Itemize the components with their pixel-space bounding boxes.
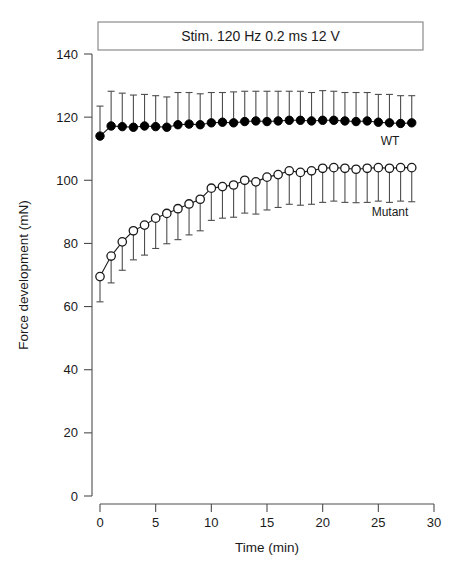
data-point-wt [118, 122, 126, 130]
data-point-mutant [296, 168, 304, 176]
data-point-wt [352, 117, 360, 125]
data-point-mutant [196, 195, 204, 203]
data-point-mutant [163, 209, 171, 217]
data-point-wt [363, 117, 371, 125]
data-point-mutant [218, 182, 226, 190]
series-label-mutant: Mutant [372, 205, 409, 219]
y-tick-label: 0 [71, 489, 78, 504]
data-point-mutant [352, 165, 360, 173]
x-axis-title: Time (min) [235, 540, 299, 555]
x-axis-ticks: 051015202530 [96, 504, 441, 530]
data-point-mutant [174, 205, 182, 213]
data-point-wt [374, 118, 382, 126]
panel-title-box: Stim. 120 Hz 0.2 ms 12 V [98, 22, 423, 50]
data-point-wt [96, 132, 104, 140]
data-point-mutant [307, 167, 315, 175]
data-point-wt [151, 122, 159, 130]
data-point-wt [252, 117, 260, 125]
data-point-wt [185, 120, 193, 128]
data-point-wt [174, 121, 182, 129]
x-tick-label: 30 [427, 515, 441, 530]
series-mutant [96, 163, 416, 301]
y-tick-label: 20 [64, 425, 78, 440]
data-point-mutant [96, 272, 104, 280]
data-point-mutant [107, 252, 115, 260]
x-tick-label: 20 [315, 515, 329, 530]
data-point-mutant [330, 163, 338, 171]
data-point-wt [385, 119, 393, 127]
chart-canvas: Stim. 120 Hz 0.2 ms 12 V 020406080100120… [0, 0, 461, 573]
y-tick-label: 100 [56, 173, 78, 188]
data-point-wt [207, 119, 215, 127]
y-axis-ticks: 020406080100120140 [56, 47, 92, 504]
y-axis-title: Force development (mN) [16, 200, 31, 349]
data-point-mutant [318, 164, 326, 172]
data-point-wt [263, 117, 271, 125]
data-point-mutant [374, 163, 382, 171]
data-point-mutant [341, 164, 349, 172]
data-point-wt [140, 122, 148, 130]
data-point-mutant [151, 214, 159, 222]
data-point-mutant [363, 164, 371, 172]
data-point-mutant [252, 178, 260, 186]
x-tick-label: 10 [204, 515, 218, 530]
data-point-mutant [274, 170, 282, 178]
x-tick-label: 0 [96, 515, 103, 530]
y-tick-label: 140 [56, 47, 78, 62]
x-tick-label: 25 [371, 515, 385, 530]
data-point-mutant [385, 164, 393, 172]
y-tick-label: 40 [64, 362, 78, 377]
data-point-mutant [263, 173, 271, 181]
data-point-wt [330, 116, 338, 124]
data-point-wt [107, 122, 115, 130]
data-point-mutant [140, 221, 148, 229]
data-point-wt [163, 123, 171, 131]
y-tick-label: 60 [64, 299, 78, 314]
data-point-wt [218, 118, 226, 126]
data-point-mutant [241, 176, 249, 184]
data-point-mutant [285, 167, 293, 175]
data-point-wt [307, 117, 315, 125]
y-tick-label: 120 [56, 110, 78, 125]
y-tick-label: 80 [64, 236, 78, 251]
data-point-wt [229, 119, 237, 127]
series-wt [96, 91, 416, 141]
data-point-wt [341, 117, 349, 125]
x-tick-label: 5 [152, 515, 159, 530]
data-point-mutant [118, 238, 126, 246]
x-tick-label: 15 [260, 515, 274, 530]
data-point-mutant [408, 163, 416, 171]
data-point-mutant [129, 227, 137, 235]
force-development-chart: Stim. 120 Hz 0.2 ms 12 V 020406080100120… [0, 0, 461, 573]
data-point-mutant [229, 181, 237, 189]
data-point-wt [129, 123, 137, 131]
data-point-wt [396, 119, 404, 127]
data-point-wt [318, 116, 326, 124]
data-point-wt [296, 116, 304, 124]
panel-title-text: Stim. 120 Hz 0.2 ms 12 V [181, 28, 340, 44]
series-label-wt: WT [381, 134, 400, 148]
data-point-wt [408, 119, 416, 127]
data-point-mutant [396, 163, 404, 171]
data-point-wt [274, 117, 282, 125]
data-point-mutant [207, 184, 215, 192]
data-point-wt [285, 116, 293, 124]
data-point-wt [241, 117, 249, 125]
data-point-mutant [185, 200, 193, 208]
data-point-wt [196, 121, 204, 129]
